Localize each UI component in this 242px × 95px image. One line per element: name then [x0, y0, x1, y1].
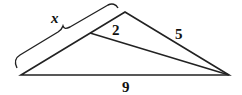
- label-x: x: [50, 10, 59, 26]
- label-segment-2: 2: [112, 22, 120, 38]
- cevian-segment: [90, 33, 229, 75]
- label-base-9: 9: [122, 79, 130, 95]
- triangle-diagram: x 2 5 9: [0, 0, 242, 95]
- x-brace: [15, 4, 118, 68]
- label-side-5: 5: [175, 26, 183, 42]
